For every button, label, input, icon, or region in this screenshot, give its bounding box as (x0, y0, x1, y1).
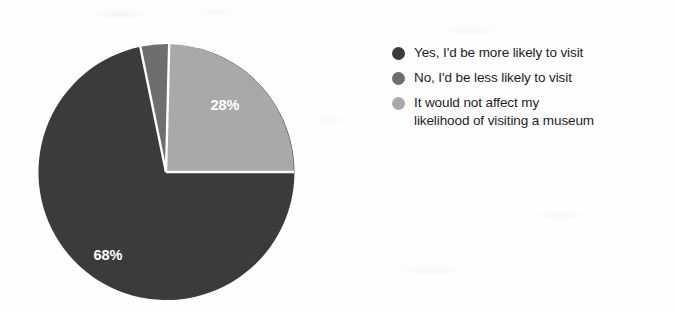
chart-legend: Yes, I'd be more likely to visit No, I'd… (392, 44, 667, 137)
legend-marker-circle-icon (392, 97, 405, 110)
legend-label-no-effect-wrapper: It would not affect my likelihood of vis… (414, 94, 594, 130)
legend-item-yes-more-likely[interactable]: Yes, I'd be more likely to visit (392, 44, 667, 62)
legend-label-yes-more-likely: Yes, I'd be more likely to visit (414, 44, 583, 62)
pie-chart-graphic: 28% 68% (28, 34, 318, 304)
legend-marker-circle-icon (392, 72, 405, 85)
legend-item-no-less-likely[interactable]: No, I'd be less likely to visit (392, 69, 667, 87)
legend-label-no-effect-line2: likelihood of visiting a museum (414, 112, 594, 130)
legend-label-no-less-likely: No, I'd be less likely to visit (414, 69, 572, 87)
pie-chart-area: 28% 68% (0, 0, 360, 312)
pie-label-no-effect: 28% (210, 97, 239, 113)
legend-item-no-effect[interactable]: It would not affect my likelihood of vis… (392, 94, 667, 130)
pie-label-yes-more-likely: 68% (93, 247, 122, 263)
legend-label-no-effect-line1: It would not affect my (414, 95, 539, 110)
legend-marker-circle-icon (392, 47, 405, 60)
